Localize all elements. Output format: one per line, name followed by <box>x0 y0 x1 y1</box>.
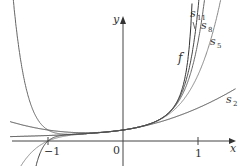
s8-label: s 8 <box>201 19 212 34</box>
s5-label: s 5 <box>210 35 221 50</box>
y-axis-arrow-icon <box>120 16 126 24</box>
y-axis-label: y <box>112 13 120 26</box>
svg-text:5: 5 <box>217 42 221 50</box>
x-axis-label: x <box>230 142 237 155</box>
curve-s8 <box>13 0 205 134</box>
svg-text:s: s <box>226 93 232 106</box>
origin-label: 0 <box>113 144 120 157</box>
svg-text:2: 2 <box>233 100 237 108</box>
svg-text:s: s <box>201 19 207 32</box>
svg-text:s: s <box>210 35 216 48</box>
svg-text:8: 8 <box>208 26 212 34</box>
chart: −1 0 1 x y f s 11 s 8 s 5 s 2 <box>0 0 245 166</box>
tick-label-1: 1 <box>195 147 202 160</box>
s2-label: s 2 <box>226 93 237 108</box>
f-label: f <box>177 51 185 65</box>
tick-label-neg1: −1 <box>44 145 60 158</box>
svg-text:s: s <box>190 7 196 20</box>
s11-pointer <box>193 22 195 29</box>
